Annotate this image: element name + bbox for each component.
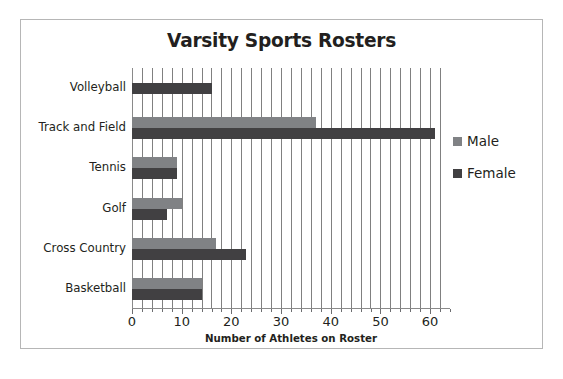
x-tick-minor: [390, 309, 391, 312]
x-tick-minor: [291, 309, 292, 312]
x-tick-minor: [162, 309, 163, 312]
male-swatch-icon: [453, 137, 462, 146]
bar-male: [132, 117, 316, 128]
x-tick-minor: [321, 309, 322, 312]
bar-male: [132, 157, 177, 168]
bar-group: [132, 108, 450, 148]
x-tick-label: 40: [311, 314, 351, 329]
category-label: Track and Field: [24, 119, 126, 134]
x-tick-minor: [271, 309, 272, 312]
x-tick-label: 50: [360, 314, 400, 329]
x-tick-label: 10: [162, 314, 202, 329]
x-tick-minor: [361, 309, 362, 312]
x-tick-minor: [202, 309, 203, 312]
bar-female: [132, 289, 202, 300]
bar-group: [132, 269, 450, 309]
category-label: Tennis: [24, 159, 126, 174]
bar-female: [132, 128, 435, 139]
x-tick-minor: [341, 309, 342, 312]
bar-female: [132, 168, 177, 179]
category-label: Basketball: [24, 280, 126, 295]
x-tick-minor: [152, 309, 153, 312]
x-tick-minor: [301, 309, 302, 312]
category-axis-labels: VolleyballTrack and FieldTennisGolfCross…: [21, 68, 126, 309]
x-tick-minor: [420, 309, 421, 312]
x-tick-label: 30: [261, 314, 301, 329]
legend-entry: Male: [453, 130, 533, 152]
x-tick-minor: [241, 309, 242, 312]
x-tick-label: 0: [112, 314, 152, 329]
x-tick-minor: [172, 309, 173, 312]
bar-male: [132, 198, 182, 209]
bar-female: [132, 209, 167, 220]
bar-group: [132, 148, 450, 188]
x-tick-minor: [371, 309, 372, 312]
x-axis-tick-labels: 0102030405060: [132, 314, 450, 334]
x-tick-minor: [440, 309, 441, 312]
chart-legend: MaleFemale: [453, 130, 533, 194]
x-tick-minor: [410, 309, 411, 312]
category-label: Volleyball: [24, 79, 126, 94]
chart-card: Varsity Sports Rosters VolleyballTrack a…: [20, 19, 543, 349]
x-axis-title: Number of Athletes on Roster: [96, 332, 487, 345]
bar-female: [132, 83, 212, 94]
bar-group: [132, 189, 450, 229]
category-label: Golf: [24, 200, 126, 215]
x-tick-minor: [261, 309, 262, 312]
legend-entry: Female: [453, 162, 533, 184]
x-tick-minor: [311, 309, 312, 312]
female-swatch-icon: [453, 169, 462, 178]
x-tick-minor: [450, 309, 451, 312]
category-label: Cross Country: [24, 240, 126, 255]
chart-title: Varsity Sports Rosters: [39, 28, 524, 52]
x-tick-minor: [221, 309, 222, 312]
bar-female: [132, 249, 246, 260]
x-tick-minor: [251, 309, 252, 312]
x-tick-label: 60: [410, 314, 450, 329]
bar-male: [132, 278, 202, 289]
plot-area: [132, 68, 450, 309]
x-tick-label: 20: [211, 314, 251, 329]
x-tick-minor: [212, 309, 213, 312]
bar-group: [132, 68, 450, 108]
x-tick-minor: [351, 309, 352, 312]
x-tick-minor: [142, 309, 143, 312]
x-tick-minor: [400, 309, 401, 312]
legend-label: Female: [467, 165, 516, 181]
bar-group: [132, 229, 450, 269]
x-tick-minor: [192, 309, 193, 312]
legend-label: Male: [467, 133, 499, 149]
bar-male: [132, 238, 216, 249]
